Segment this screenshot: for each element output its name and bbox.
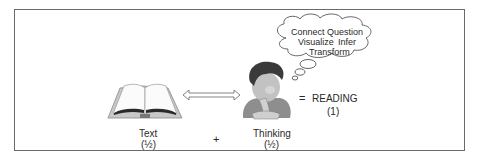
text-fraction: (½): [141, 139, 156, 150]
thinking-person-icon: [243, 62, 291, 119]
thinking-label: Thinking: [253, 128, 291, 139]
diagram-graphics: [0, 0, 481, 160]
thinking-fraction: (½): [264, 139, 279, 150]
bubble-word-transform: Transform: [309, 47, 350, 58]
text-label: Text: [139, 128, 157, 139]
equals-sign: =: [299, 93, 305, 104]
result-label: READING: [312, 93, 358, 104]
open-book-icon: [108, 84, 182, 118]
result-value: (1): [327, 106, 339, 117]
plus-sign: +: [213, 134, 219, 145]
double-arrow-icon: [183, 90, 240, 100]
